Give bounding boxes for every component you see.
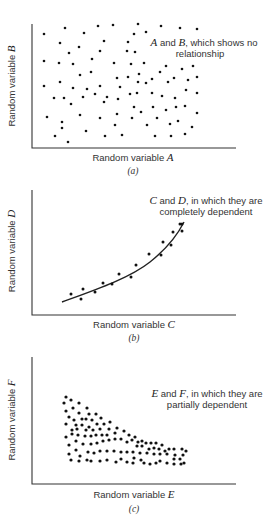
data-point (75, 427, 78, 430)
data-point (142, 461, 145, 464)
data-point (105, 433, 108, 436)
data-point (121, 134, 124, 137)
panel-a-annotation-line2: relationship (176, 48, 225, 59)
data-point (175, 106, 178, 109)
data-point (105, 458, 108, 461)
data-point (79, 114, 82, 117)
data-point (70, 293, 73, 296)
data-point (85, 458, 88, 461)
data-point (132, 456, 135, 459)
data-point (180, 447, 183, 450)
data-point (116, 77, 119, 80)
data-point (182, 461, 185, 464)
data-point (103, 40, 106, 43)
data-point (125, 460, 128, 463)
data-point (181, 230, 184, 233)
data-point (79, 74, 82, 77)
data-point (158, 459, 161, 462)
data-point (157, 447, 160, 450)
data-point (145, 451, 148, 454)
data-point (94, 93, 97, 96)
data-point (112, 449, 115, 452)
data-point (129, 93, 132, 96)
data-point (77, 411, 80, 414)
data-point (181, 223, 184, 226)
data-point (131, 461, 134, 464)
data-point (136, 92, 139, 95)
data-point (91, 428, 94, 431)
data-point (81, 442, 84, 445)
data-point (117, 98, 120, 101)
panel-a: Random variable B Random variable A (a) … (5, 23, 257, 177)
data-point (144, 441, 147, 444)
panel-c-annotation-line2: partially dependent (167, 399, 248, 410)
panel-c-axes (32, 357, 236, 484)
data-point (127, 76, 130, 79)
data-point (106, 96, 109, 99)
data-point (94, 291, 97, 294)
data-point (179, 27, 182, 30)
data-point (173, 77, 176, 80)
data-point (196, 112, 199, 115)
data-point (67, 415, 70, 418)
data-point (70, 103, 73, 106)
data-point (119, 437, 122, 440)
panel-a-caption: (a) (127, 166, 138, 177)
data-point (80, 417, 83, 420)
data-point (107, 427, 110, 430)
data-point (43, 60, 46, 63)
data-point (104, 135, 107, 138)
data-point (107, 438, 110, 441)
data-point (74, 423, 77, 426)
data-point (145, 31, 148, 34)
data-point (99, 50, 102, 53)
data-point (98, 427, 101, 430)
panel-b-x-axis-label: Random variable C (93, 318, 175, 330)
data-point (172, 447, 175, 450)
data-point (154, 441, 157, 444)
data-point (138, 451, 141, 454)
data-point (53, 97, 56, 100)
data-point (140, 444, 143, 447)
data-point (148, 253, 151, 256)
data-point (143, 62, 146, 65)
data-point (43, 85, 46, 88)
data-point (85, 406, 88, 409)
panel-b-scatter-points (70, 223, 184, 301)
data-point (72, 87, 75, 90)
data-point (102, 282, 105, 285)
data-point (85, 130, 88, 133)
data-point (131, 450, 134, 453)
data-point (196, 92, 199, 95)
data-point (179, 462, 182, 465)
data-point (177, 120, 180, 123)
data-point (101, 439, 104, 442)
panel-a-annotation-line1: A and B, which shows no (150, 36, 258, 48)
data-point (119, 450, 122, 453)
data-point (184, 105, 187, 108)
data-point (64, 435, 67, 438)
data-point (196, 28, 199, 31)
data-point (59, 81, 62, 84)
data-point (98, 459, 101, 462)
data-point (90, 71, 93, 74)
data-point (139, 458, 142, 461)
data-point (62, 401, 65, 404)
data-point (113, 431, 116, 434)
data-point (130, 276, 133, 279)
data-point (140, 439, 143, 442)
data-point (122, 429, 125, 432)
data-point (152, 446, 155, 449)
data-point (126, 50, 129, 53)
data-point (160, 25, 163, 28)
data-point (136, 440, 139, 443)
panel-a-y-axis-label: Random variable B (5, 45, 17, 126)
data-point (61, 127, 64, 130)
panel-a-x-axis-label: Random variable A (92, 151, 173, 163)
panel-b: Random variable D Random variable C (b) … (5, 190, 263, 344)
data-point (95, 422, 98, 425)
data-point (172, 462, 175, 465)
data-point (70, 428, 73, 431)
data-point (54, 135, 57, 138)
data-point (165, 452, 168, 455)
